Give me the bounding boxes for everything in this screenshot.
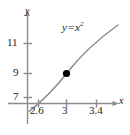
y-axis-label: y — [25, 6, 29, 16]
x-tick-label-3: 3 — [62, 105, 68, 116]
y-tick-label-9: 9 — [13, 67, 19, 78]
equation-operator: = — [67, 21, 75, 33]
x-axis-label: x — [119, 96, 123, 106]
y-tick-label-7: 7 — [13, 91, 19, 102]
y-tick-label-11: 11 — [7, 37, 18, 48]
curve-y-equals-x-squared — [29, 25, 118, 112]
x-tick-label-3-4: 3.4 — [89, 105, 103, 116]
graph-figure: 11 9 7 2.6 3 3.4 y x y=x2 — [0, 0, 130, 135]
equation-exponent: 2 — [80, 20, 84, 28]
curve-equation-label: y=x2 — [62, 22, 84, 33]
data-point-marker — [63, 70, 70, 77]
x-tick-label-2-6: 2.6 — [30, 105, 44, 116]
